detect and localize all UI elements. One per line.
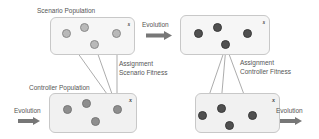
controller-population-title: Controller Population: [29, 85, 90, 92]
scenario-population-title: Scenario Population: [37, 8, 95, 15]
controller-individual: [63, 105, 72, 114]
scenario-individual: [194, 29, 203, 38]
evolution-arrow-icon: [18, 117, 40, 125]
controller-individual: [248, 111, 257, 120]
evolution-arrow-icon: [280, 117, 302, 125]
evolution-label-top: Evolution: [142, 22, 169, 29]
controller-population-box: x: [49, 93, 137, 133]
evolution-label-right: Evolution: [276, 108, 303, 115]
evolution-arrow-icon: [146, 31, 172, 40]
scenario-individual: [243, 29, 252, 38]
evolved-controller-box: x: [195, 93, 280, 133]
controller-individual: [198, 111, 207, 120]
controller-variable: x: [129, 97, 132, 103]
controller-individual: [225, 121, 234, 130]
scenario-individual: [221, 40, 230, 49]
controller-variable: x: [272, 97, 275, 103]
evolution-label-left: Evolution: [14, 108, 41, 115]
controller-individual: [113, 105, 122, 114]
assignment-scenario-line1: Assignment: [119, 61, 153, 68]
assignment-controller-line1: Assignment: [240, 60, 274, 67]
scenario-individual: [62, 29, 71, 38]
assignment-scenario-line2: Scenario Fitness: [119, 70, 167, 77]
scenario-individual: [90, 40, 99, 49]
controller-individual: [217, 104, 226, 113]
scenario-variable: s: [128, 21, 130, 27]
controller-individual: [82, 99, 91, 108]
assignment-controller-line2: Controller Fitness: [240, 69, 291, 76]
scenario-individual: [112, 29, 121, 38]
scenario-individual: [80, 23, 89, 32]
scenario-variable: s: [263, 19, 265, 25]
controller-individual: [91, 117, 100, 126]
scenario-individual: [213, 23, 222, 32]
